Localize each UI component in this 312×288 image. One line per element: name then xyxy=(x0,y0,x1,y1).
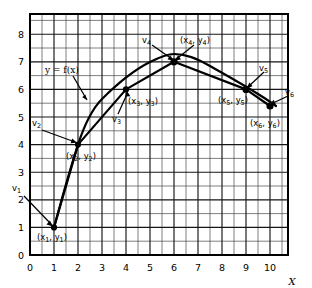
x-tick-7: 7 xyxy=(195,262,201,273)
y-tick-4: 4 xyxy=(18,139,24,150)
y-tick-1: 1 xyxy=(18,222,24,233)
x-tick-0: 0 xyxy=(27,262,33,273)
x-tick-2: 2 xyxy=(75,262,81,273)
y-tick-2: 2 xyxy=(18,194,24,205)
graph-svg: y = f(x) v1 v2 v3 v4 v5 v6 (x1, y1) (x2,… xyxy=(0,0,312,288)
y-tick-3: 3 xyxy=(18,167,24,178)
x-tick-8: 8 xyxy=(219,262,225,273)
x-tick-9: 9 xyxy=(243,262,249,273)
x-axis-name: X xyxy=(287,276,296,287)
y-tick-5: 5 xyxy=(18,112,24,123)
y-tick-8: 8 xyxy=(18,29,24,40)
y-tick-6: 6 xyxy=(18,84,24,95)
vertex-label-v1: v1 xyxy=(12,183,21,195)
x-tick-4: 4 xyxy=(123,262,129,273)
y-axis-tick-labels: 0 1 2 3 4 5 6 7 8 xyxy=(18,29,24,261)
x-tick-5: 5 xyxy=(147,262,153,273)
vertex-dot-v3 xyxy=(123,86,129,92)
x-tick-6: 6 xyxy=(171,262,177,273)
y-tick-0: 0 xyxy=(18,250,24,261)
function-label: y = f(x) xyxy=(44,65,79,75)
y-tick-7: 7 xyxy=(18,56,24,67)
graph-figure: y = f(x) v1 v2 v3 v4 v5 v6 (x1, y1) (x2,… xyxy=(0,0,312,288)
x-tick-3: 3 xyxy=(99,262,105,273)
x-tick-10: 10 xyxy=(264,262,276,273)
x-tick-1: 1 xyxy=(51,262,57,273)
x-axis-tick-labels: 0 1 2 3 4 5 6 7 8 9 10 xyxy=(27,262,276,273)
